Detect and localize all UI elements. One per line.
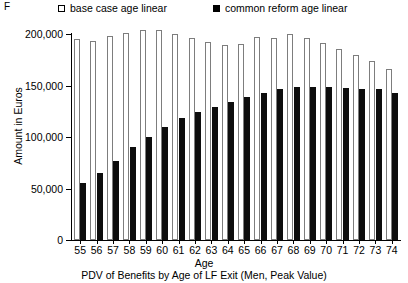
bar-common-reform[interactable]: [343, 88, 349, 240]
bar-base-case[interactable]: [140, 30, 146, 240]
bar-group: [189, 34, 202, 240]
bar-group: [222, 34, 235, 240]
bar-group: [271, 34, 284, 240]
bar-base-case[interactable]: [205, 42, 211, 240]
y-axis-tick: [66, 189, 71, 190]
bar-group: [304, 34, 317, 240]
bar-common-reform[interactable]: [80, 183, 86, 240]
bar-common-reform[interactable]: [359, 89, 365, 240]
x-axis-title: Age: [0, 257, 408, 269]
filled-square-icon: [213, 5, 220, 12]
bar-common-reform[interactable]: [228, 102, 234, 240]
chart-figure: F base case age linear common reform age…: [0, 0, 408, 283]
y-axis-tick-label: 150,000: [25, 81, 63, 91]
bar-group: [172, 34, 185, 240]
bar-base-case[interactable]: [172, 34, 178, 240]
chart-caption: PDV of Benefits by Age of LF Exit (Men, …: [0, 269, 408, 281]
bar-base-case[interactable]: [304, 38, 310, 240]
bar-common-reform[interactable]: [179, 118, 185, 240]
bar-common-reform[interactable]: [130, 147, 136, 240]
bar-base-case[interactable]: [271, 38, 277, 240]
bar-common-reform[interactable]: [97, 173, 103, 240]
bar-common-reform[interactable]: [195, 112, 201, 240]
bar-common-reform[interactable]: [146, 137, 152, 240]
plot-area: [72, 34, 400, 240]
bar-group: [369, 34, 382, 240]
chart-legend: base case age linear common reform age l…: [58, 1, 406, 15]
bar-base-case[interactable]: [320, 43, 326, 240]
bar-group: [320, 34, 333, 240]
legend-item-common-reform: common reform age linear: [213, 3, 348, 14]
bar-group: [386, 34, 399, 240]
bar-base-case[interactable]: [90, 41, 96, 240]
bar-base-case[interactable]: [287, 34, 293, 240]
bar-group: [254, 34, 267, 240]
bar-group: [140, 34, 153, 240]
bar-common-reform[interactable]: [113, 161, 119, 240]
bar-common-reform[interactable]: [162, 127, 168, 240]
bar-base-case[interactable]: [156, 30, 162, 240]
bar-base-case[interactable]: [386, 69, 392, 240]
bar-group: [74, 34, 87, 240]
bar-base-case[interactable]: [336, 49, 342, 240]
bar-group: [336, 34, 349, 240]
legend-item-base-case: base case age linear: [58, 3, 167, 14]
bar-common-reform[interactable]: [392, 93, 398, 240]
bar-common-reform[interactable]: [294, 87, 300, 240]
legend-label-base-case: base case age linear: [70, 3, 167, 14]
bar-group: [287, 34, 300, 240]
y-axis-tick-label: 100,000: [25, 132, 63, 142]
bar-common-reform[interactable]: [244, 97, 250, 240]
y-axis-tick: [66, 34, 71, 35]
bar-common-reform[interactable]: [376, 89, 382, 240]
bar-common-reform[interactable]: [277, 89, 283, 240]
bar-base-case[interactable]: [369, 61, 375, 240]
bar-base-case[interactable]: [189, 38, 195, 240]
bar-group: [238, 34, 251, 240]
bar-common-reform[interactable]: [212, 107, 218, 240]
y-axis-tick: [66, 137, 71, 138]
bar-common-reform[interactable]: [261, 93, 267, 240]
y-axis-tick-label: 200,000: [25, 29, 63, 39]
bar-base-case[interactable]: [123, 33, 129, 240]
legend-label-common-reform: common reform age linear: [225, 3, 348, 14]
y-axis-tick: [66, 86, 71, 87]
bar-group: [123, 34, 136, 240]
bar-base-case[interactable]: [238, 44, 244, 240]
bar-base-case[interactable]: [353, 55, 359, 240]
bar-group: [156, 34, 169, 240]
bar-base-case[interactable]: [222, 45, 228, 240]
bar-common-reform[interactable]: [326, 87, 332, 240]
bar-base-case[interactable]: [254, 37, 260, 240]
bar-group: [353, 34, 366, 240]
x-axis-tick-label: 74: [382, 245, 402, 256]
bar-base-case[interactable]: [74, 39, 80, 240]
bar-common-reform[interactable]: [310, 87, 316, 240]
bar-group: [205, 34, 218, 240]
bar-group: [107, 34, 120, 240]
bar-base-case[interactable]: [107, 36, 113, 240]
bar-group: [90, 34, 103, 240]
y-axis-tick-label: 50,000: [31, 184, 63, 194]
